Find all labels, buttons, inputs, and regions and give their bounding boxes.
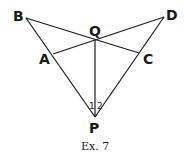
label-c: C [143, 51, 153, 67]
segment-dp [95, 17, 164, 117]
label-d: D [166, 7, 178, 23]
label-b: B [13, 8, 24, 24]
geometry-diagram: B D Q A C P 1 2 Ex. 7 [0, 0, 185, 155]
figure-caption: Ex. 7 [81, 140, 109, 153]
segment-bc [26, 18, 139, 53]
angle-2-label: 2 [97, 101, 103, 111]
segment-bp [26, 18, 95, 117]
label-a: A [39, 51, 50, 67]
segment-ad [53, 17, 164, 54]
label-p: P [89, 120, 99, 136]
label-q: Q [89, 23, 101, 39]
angle-1-label: 1 [89, 101, 95, 111]
